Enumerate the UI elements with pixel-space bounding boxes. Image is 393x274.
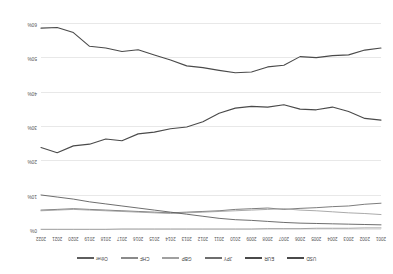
x-axis-tick-label: 2004 (327, 235, 337, 240)
x-axis-tick-label: 2008 (263, 235, 273, 240)
x-axis-tick-label: 2016 (133, 235, 143, 240)
y-axis-tick-label: 30% (27, 124, 37, 129)
x-axis-tick-label: 2003 (344, 235, 354, 240)
x-axis-tick-label: 2015 (149, 235, 159, 240)
legend-item-usd[interactable]: USD (287, 256, 316, 261)
y-axis-tick-label: 40% (27, 90, 37, 95)
series-line-chf (41, 228, 381, 229)
legend-swatch-icon (205, 257, 222, 259)
x-axis-tick-label: 2001 (376, 235, 386, 240)
series-line-eur (41, 105, 381, 153)
legend-label: GBP (182, 256, 192, 261)
x-axis-tick-label: 2006 (295, 235, 305, 240)
legend-item-jpy[interactable]: JPY (205, 256, 233, 261)
legend-item-eur[interactable]: EUR (245, 256, 274, 261)
x-axis-tick-label: 2005 (311, 235, 321, 240)
rotated-figure-wrapper: USDEURJPYGBPCHFOther 0%10%20%30%40%50%60… (0, 0, 393, 274)
chart-legend: USDEURJPYGBPCHFOther (0, 252, 393, 264)
x-axis-tick-label: 2009 (246, 235, 256, 240)
series-lines (41, 24, 381, 230)
legend-label: EUR (264, 256, 274, 261)
legend-label: JPY (224, 256, 233, 261)
legend-item-gbp[interactable]: GBP (163, 256, 192, 261)
legend-item-other[interactable]: Other (77, 256, 108, 261)
legend-label: CHF (140, 256, 150, 261)
legend-item-chf[interactable]: CHF (121, 256, 150, 261)
series-line-usd (41, 27, 381, 72)
x-axis-tick-label: 2019 (84, 235, 94, 240)
x-axis-tick-label: 2017 (117, 235, 127, 240)
legend-swatch-icon (163, 257, 180, 259)
legend-swatch-icon (77, 257, 94, 259)
x-axis-tick-label: 2021 (52, 235, 62, 240)
legend-swatch-icon (287, 257, 304, 259)
x-axis-tick-label: 2011 (214, 235, 224, 240)
legend-swatch-icon (245, 257, 262, 259)
x-axis-tick-label: 2018 (101, 235, 111, 240)
legend-label: Other (96, 256, 108, 261)
y-axis-tick-label: 50% (27, 56, 37, 61)
x-axis-tick-label: 2014 (165, 235, 175, 240)
y-axis-tick-label: 0% (30, 227, 37, 232)
y-axis-tick-label: 20% (27, 159, 37, 164)
x-axis-tick-label: 2022 (36, 235, 46, 240)
x-axis-tick-label: 2010 (230, 235, 240, 240)
x-axis-tick-label: 2007 (279, 235, 289, 240)
chart-screenshot: USDEURJPYGBPCHFOther 0%10%20%30%40%50%60… (0, 0, 393, 274)
x-axis-tick-label: 2012 (198, 235, 208, 240)
legend-label: USD (306, 256, 316, 261)
x-axis-tick-label: 2002 (360, 235, 370, 240)
plot-area: 0%10%20%30%40%50%60% 2001200220032004200… (41, 24, 381, 230)
line-chart-figure: USDEURJPYGBPCHFOther 0%10%20%30%40%50%60… (0, 0, 393, 274)
y-axis-tick-label: 60% (27, 21, 37, 26)
legend-swatch-icon (121, 257, 138, 259)
x-axis-tick-label: 2020 (68, 235, 78, 240)
x-axis-tick-label: 2013 (182, 235, 192, 240)
y-axis-tick-label: 10% (27, 193, 37, 198)
